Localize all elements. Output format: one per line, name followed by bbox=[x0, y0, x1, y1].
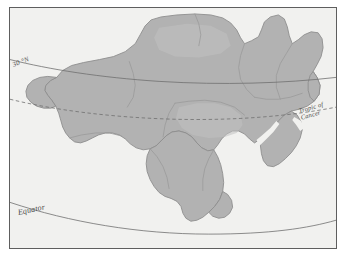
map-canvas bbox=[10, 8, 336, 248]
map-figure: 30 °N Tropic of Cancer Equator bbox=[0, 0, 346, 258]
map-frame bbox=[9, 7, 337, 249]
